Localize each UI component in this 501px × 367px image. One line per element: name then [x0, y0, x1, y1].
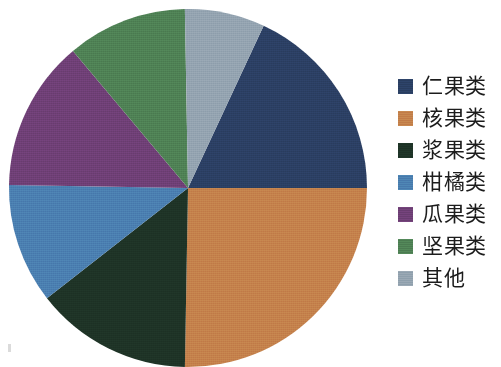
legend-color-swatch	[398, 175, 413, 190]
legend-item-label: 瓜果类	[422, 202, 487, 226]
legend-item[interactable]: 瓜果类	[398, 198, 501, 230]
legend-item[interactable]: 浆果类	[398, 134, 501, 166]
legend-color-swatch	[398, 111, 413, 126]
legend-item[interactable]: 核果类	[398, 102, 501, 134]
chart-legend: 仁果类核果类浆果类柑橘类瓜果类坚果类其他	[398, 70, 501, 294]
pie-slice-group	[9, 9, 367, 367]
legend-color-swatch	[398, 79, 413, 94]
legend-item-label: 坚果类	[422, 234, 487, 258]
legend-item-label: 浆果类	[422, 138, 487, 162]
legend-item[interactable]: 其他	[398, 262, 501, 294]
legend-item-label: 柑橘类	[422, 170, 487, 194]
legend-item-label: 仁果类	[422, 74, 487, 98]
legend-item-label: 其他	[422, 266, 465, 290]
legend-item[interactable]: 柑橘类	[398, 166, 501, 198]
legend-color-swatch	[398, 239, 413, 254]
legend-color-swatch	[398, 271, 413, 286]
pie-chart-figure: 仁果类核果类浆果类柑橘类瓜果类坚果类其他	[0, 0, 501, 367]
legend-color-swatch	[398, 143, 413, 158]
pie-chart-plot-area	[6, 6, 376, 367]
legend-item-label: 核果类	[422, 106, 487, 130]
legend-color-swatch	[398, 207, 413, 222]
legend-item[interactable]: 仁果类	[398, 70, 501, 102]
legend-item[interactable]: 坚果类	[398, 230, 501, 262]
scan-artifact-speck	[8, 344, 11, 352]
pie-slice[interactable]	[185, 188, 367, 367]
pie-chart-svg	[6, 6, 376, 367]
